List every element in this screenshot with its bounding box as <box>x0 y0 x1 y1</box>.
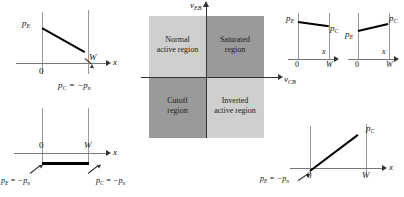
y-axis-line <box>298 13 299 59</box>
x-axis-arrow-icon <box>334 56 339 62</box>
label-pe-sub: E <box>27 23 31 29</box>
quadrant-cutoff[interactable]: Cutoffregion <box>149 77 206 138</box>
plot-cutoff: 0 W x pE = −pn pC = −pn <box>0 98 145 197</box>
x-axis-line <box>290 168 382 169</box>
label-origin: 0 <box>39 140 44 150</box>
label-pe: pE <box>345 29 353 40</box>
plot-normal-active: pE 0 W x pC = −pn <box>0 0 140 98</box>
plot-inverted-active-bottom: pC 0 W x pE = −pn <box>262 112 404 197</box>
label-x-axis: x <box>389 162 393 172</box>
v-cb-axis-arrow-icon <box>278 74 283 80</box>
label-x-axis: x <box>113 57 117 67</box>
label-width: W <box>362 170 370 180</box>
figure-root: pE 0 W x pC = −pn 0 W x pE = −pn pC = −p… <box>0 0 404 197</box>
pc-pointer-arrow-icon <box>97 163 103 169</box>
v-eb-axis-line <box>206 7 207 138</box>
label-pc-equals-minus-pn: pC = −pn <box>58 80 91 91</box>
label-pc-equals-minus-pn: pC = −pn <box>96 176 125 186</box>
quadrant-normal-active-label: Normalactive region <box>149 35 206 55</box>
quadrant-cutoff-label: Cutoffregion <box>149 96 206 116</box>
label-pc: pC <box>389 13 398 24</box>
base-width-line <box>329 13 330 59</box>
y-axis-line <box>358 13 359 59</box>
x-axis-arrow-icon <box>382 165 387 171</box>
label-width: W <box>326 60 333 69</box>
plot-saturated: pE pC 0 W x <box>284 8 342 74</box>
carrier-profile-curve <box>358 23 389 32</box>
y-axis-line <box>42 108 43 163</box>
label-origin: 0 <box>307 170 312 180</box>
label-pe: pE <box>22 18 30 29</box>
label-x-axis: x <box>382 47 386 56</box>
label-width: W <box>84 140 92 150</box>
v-eb-axis-arrow-icon <box>203 1 209 7</box>
pc-pointer-arrow-icon <box>90 64 96 70</box>
quadrant-saturated-label: Saturatedregion <box>206 35 264 55</box>
base-width-line <box>88 10 89 74</box>
quadrant-inverted-active-label: Invertedactive region <box>206 96 264 116</box>
quadrant-inverted-active[interactable]: Invertedactive region <box>206 77 264 138</box>
carrier-profile-curve <box>309 134 358 172</box>
quadrant-normal-active[interactable]: Normalactive region <box>149 16 206 77</box>
label-origin: 0 <box>39 66 44 76</box>
x-axis-arrow-icon <box>394 56 399 62</box>
x-axis-arrow-icon <box>106 150 111 156</box>
label-origin: 0 <box>355 60 359 69</box>
quadrant-saturated[interactable]: Saturatedregion <box>206 16 264 77</box>
x-axis-arrow-icon <box>106 60 111 66</box>
v-cb-axis-line <box>141 77 278 78</box>
label-pc: pC <box>366 123 375 134</box>
label-x-axis: x <box>322 47 326 56</box>
label-width: W <box>386 60 393 69</box>
carrier-profile-curve <box>298 21 329 28</box>
label-pe-equals-minus-pn: pE = −pn <box>260 174 289 184</box>
plot-inverted-active-top: pE pC 0 W x <box>344 8 402 74</box>
label-pe: pE <box>286 13 294 24</box>
base-width-line <box>88 108 89 163</box>
label-origin: 0 <box>295 60 299 69</box>
label-x-axis: x <box>113 147 117 157</box>
x-axis-line <box>14 153 106 154</box>
y-axis-line <box>42 12 43 74</box>
label-pe-equals-minus-pn: pE = −pn <box>1 176 30 186</box>
label-v-eb: vEB <box>190 0 201 11</box>
label-pc: pC <box>330 23 339 34</box>
operating-region-map: Normalactive region Saturatedregion Cuto… <box>149 16 264 138</box>
carrier-profile-curve <box>41 27 84 53</box>
y-axis-line <box>310 126 311 174</box>
carrier-profile-flatline <box>42 162 89 165</box>
label-width: W <box>89 52 97 62</box>
label-v-cb: vCB <box>284 74 296 85</box>
